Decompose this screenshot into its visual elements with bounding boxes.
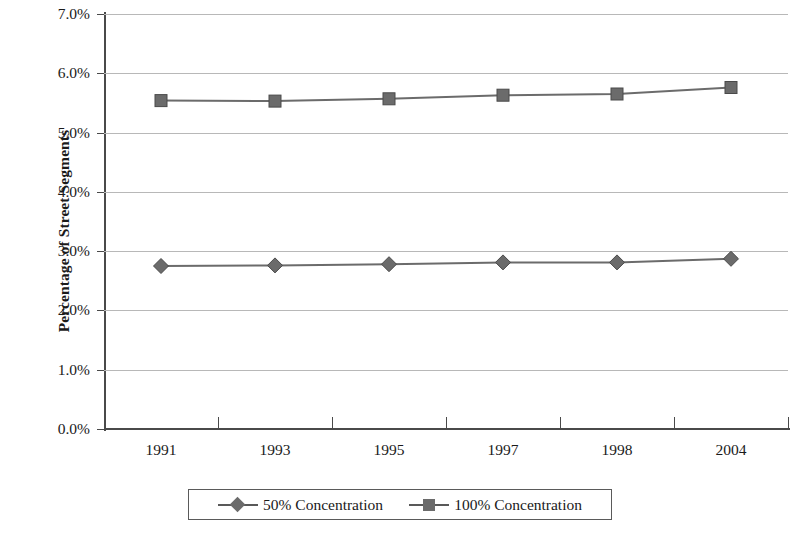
y-axis-tick xyxy=(97,251,104,252)
square-marker-icon xyxy=(409,497,449,513)
y-axis-tick-label: 7.0% xyxy=(12,5,90,23)
y-axis-tick xyxy=(97,370,104,371)
chart-container: Percentage of Street Segments 0.0%1.0%2.… xyxy=(0,0,800,535)
diamond-marker xyxy=(268,258,283,273)
y-axis-tick-label: 2.0% xyxy=(12,301,90,319)
x-axis-tick-label: 1991 xyxy=(121,441,201,459)
square-marker xyxy=(155,95,167,107)
y-axis-tick xyxy=(97,133,104,134)
x-axis-tick xyxy=(788,417,789,430)
y-axis-tick-label: 3.0% xyxy=(12,242,90,260)
plot-area: 0.0%1.0%2.0%3.0%4.0%5.0%6.0%7.0% xyxy=(104,14,788,429)
y-axis-tick-label: 6.0% xyxy=(12,64,90,82)
square-marker xyxy=(611,88,623,100)
x-axis-tick xyxy=(332,417,333,430)
y-axis-tick-label: 5.0% xyxy=(12,124,90,142)
x-axis-tick xyxy=(218,417,219,430)
y-axis-title: Percentage of Street Segments xyxy=(55,71,73,391)
y-axis-tick-label: 4.0% xyxy=(12,183,90,201)
diamond-marker xyxy=(610,255,625,270)
diamond-marker xyxy=(496,255,511,270)
x-axis-tick-label: 1998 xyxy=(577,441,657,459)
series-layer xyxy=(104,14,788,429)
y-axis-tick xyxy=(97,429,104,430)
diamond-marker xyxy=(724,251,739,266)
square-marker xyxy=(269,95,281,107)
series-line xyxy=(161,259,731,266)
x-axis-tick-label: 1995 xyxy=(349,441,429,459)
series-1 xyxy=(154,251,739,273)
y-axis-tick xyxy=(97,192,104,193)
x-axis-tick xyxy=(560,417,561,430)
x-axis-tick xyxy=(446,417,447,430)
x-axis-tick xyxy=(674,417,675,430)
y-axis-tick xyxy=(97,73,104,74)
diamond-marker-icon xyxy=(218,497,258,513)
x-axis-tick-label: 1993 xyxy=(235,441,315,459)
x-axis-tick xyxy=(104,417,105,430)
diamond-marker xyxy=(382,257,397,272)
square-marker xyxy=(497,89,509,101)
legend-label-100: 100% Concentration xyxy=(454,496,582,514)
y-axis-tick xyxy=(97,310,104,311)
x-axis-tick-label: 2004 xyxy=(691,441,771,459)
square-marker xyxy=(725,82,737,94)
series-2 xyxy=(155,82,737,108)
chart-legend: 50% Concentration 100% Concentration xyxy=(188,489,612,520)
square-marker xyxy=(383,93,395,105)
series-line xyxy=(161,88,731,102)
legend-item-50[interactable]: 50% Concentration xyxy=(218,496,383,514)
y-axis-tick xyxy=(97,14,104,15)
x-axis-tick-label: 1997 xyxy=(463,441,543,459)
diamond-marker xyxy=(154,259,169,274)
legend-item-100[interactable]: 100% Concentration xyxy=(409,496,582,514)
y-axis-tick-label: 1.0% xyxy=(12,361,90,379)
y-axis-tick-label: 0.0% xyxy=(12,420,90,438)
legend-label-50: 50% Concentration xyxy=(263,496,383,514)
